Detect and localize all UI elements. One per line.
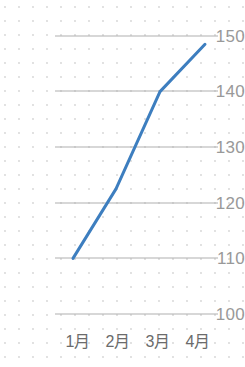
y-axis-tick-120: 120 (193, 195, 245, 212)
x-axis-tick-month-2: 2月 (106, 334, 131, 350)
line-chart: 150 140 130 120 110 100 1月 2月 3月 4月 (0, 0, 245, 367)
y-axis-tick-100: 100 (193, 306, 245, 323)
data-series-line (73, 44, 205, 258)
gridlines (55, 36, 218, 314)
y-axis-tick-150: 150 (193, 28, 245, 45)
x-axis-tick-month-3: 3月 (146, 334, 171, 350)
y-axis-tick-110: 110 (193, 250, 245, 267)
x-axis-tick-month-1: 1月 (66, 334, 91, 350)
y-axis-tick-140: 140 (193, 83, 245, 100)
y-axis-tick-130: 130 (193, 139, 245, 156)
x-axis-tick-month-4: 4月 (186, 334, 211, 350)
